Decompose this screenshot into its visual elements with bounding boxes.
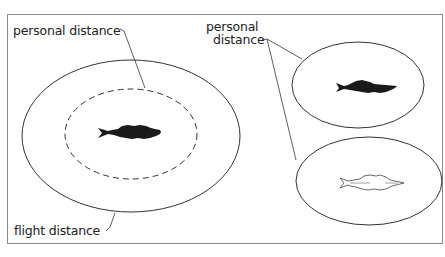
dark-fish-icon [98,125,161,139]
dark-fish-small-icon [336,80,397,93]
right-leader-bottom [267,39,296,160]
right-leader-top [267,39,302,59]
light-fish-icon [340,175,404,190]
flight-distance-leader [106,213,115,231]
frame [8,15,443,244]
personal-distance-label-right-line2: distance [213,33,264,46]
personal-distance-label-left: personal distance [13,24,121,37]
personal-distance-leader [120,29,145,88]
flight-distance-label: flight distance [14,224,100,237]
